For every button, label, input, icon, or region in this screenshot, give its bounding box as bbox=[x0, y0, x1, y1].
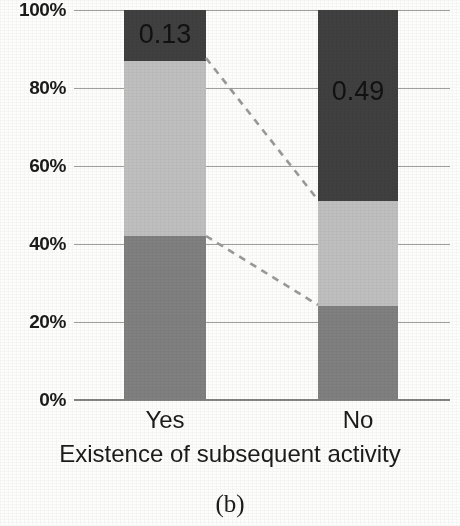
y-tick-100: 100% bbox=[0, 0, 66, 21]
y-tick-80-label: 80% bbox=[29, 77, 66, 98]
y-tick-20-label: 20% bbox=[29, 311, 66, 332]
category-label-yes-text: Yes bbox=[145, 406, 184, 433]
y-tick-60-label: 60% bbox=[29, 155, 66, 176]
y-tick-20: 20% bbox=[0, 311, 66, 333]
bar-yes-segment-bottom bbox=[124, 236, 206, 400]
bar-yes-segment-top: 0.13 bbox=[124, 10, 206, 61]
y-tick-80: 80% bbox=[0, 77, 66, 99]
y-tick-0-label: 0% bbox=[39, 389, 66, 410]
x-axis-title-text: Existence of subsequent activity bbox=[59, 440, 401, 467]
bar-yes-value-label: 0.13 bbox=[124, 19, 206, 50]
category-label-yes: Yes bbox=[145, 406, 184, 434]
x-axis-title: Existence of subsequent activity bbox=[0, 440, 460, 468]
bar-no-segment-middle bbox=[318, 201, 398, 306]
bar-no-value-label: 0.49 bbox=[318, 76, 398, 107]
bar-no[interactable]: 0.49 bbox=[318, 10, 398, 400]
plot-area: 0.13 0.49 bbox=[74, 10, 450, 400]
bar-yes[interactable]: 0.13 bbox=[124, 10, 206, 400]
bar-no-segment-top: 0.49 bbox=[318, 10, 398, 201]
y-tick-100-label: 100% bbox=[19, 0, 66, 20]
y-tick-60: 60% bbox=[0, 155, 66, 177]
figure-stacked-bar-chart: 100% 80% 60% 40% 20% 0% 0.13 bbox=[0, 0, 460, 526]
figure-caption-text: (b) bbox=[215, 490, 244, 517]
y-tick-40: 40% bbox=[0, 233, 66, 255]
category-label-no-text: No bbox=[343, 406, 374, 433]
y-tick-40-label: 40% bbox=[29, 233, 66, 254]
y-tick-0: 0% bbox=[0, 389, 66, 411]
figure-caption: (b) bbox=[0, 490, 460, 518]
category-label-no: No bbox=[343, 406, 374, 434]
bar-yes-segment-middle bbox=[124, 61, 206, 237]
bar-no-segment-bottom bbox=[318, 306, 398, 400]
